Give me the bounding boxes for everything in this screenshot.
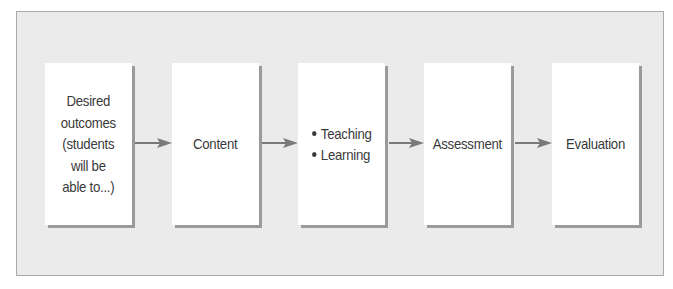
- step-teaching-learning: Teaching Learning: [298, 63, 385, 225]
- bullet-text: Learning: [321, 146, 370, 163]
- arrow-right-icon: [135, 137, 172, 149]
- step-label: Content: [193, 133, 237, 155]
- bullet-text: Teaching: [321, 125, 372, 142]
- step-evaluation: Evaluation: [552, 63, 639, 225]
- step-assessment: Assessment: [424, 63, 511, 225]
- step-label: Desired outcomes (students will be able …: [61, 90, 116, 198]
- step-label: Evaluation: [566, 133, 625, 155]
- step-desired-outcomes: Desired outcomes (students will be able …: [45, 63, 132, 225]
- bullet-icon: [312, 131, 316, 136]
- arrow-right-icon: [515, 137, 552, 149]
- bullet-icon: [312, 152, 316, 157]
- step-content: Content: [172, 63, 259, 225]
- bullet-list: Teaching Learning: [312, 123, 372, 165]
- arrow-right-icon: [389, 137, 424, 149]
- arrow-right-icon: [262, 137, 298, 149]
- step-label: Assessment: [433, 133, 502, 155]
- bullet-item: Teaching: [312, 123, 372, 144]
- bullet-item: Learning: [312, 144, 372, 165]
